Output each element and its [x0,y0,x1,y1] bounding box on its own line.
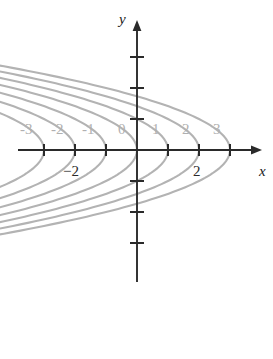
x-tick-label: -3 [20,121,33,137]
x-tick-label: 1 [152,121,160,137]
level-curves-figure: -3-2-10123−22 x y [0,0,273,359]
x-tick-label: -2 [51,121,64,137]
x-axis-arrowhead [251,146,262,155]
x-tick-label-below-axis: −2 [63,163,79,179]
x-tick-label-below-axis: 2 [193,163,201,179]
y-axis-arrowhead [133,20,142,31]
y-axis-label: y [117,11,126,27]
x-axis-label: x [258,163,266,179]
x-tick-label: 0 [118,121,126,137]
x-tick-label: 2 [182,121,190,137]
x-tick-label: -1 [82,121,95,137]
x-tick-label: 3 [213,121,221,137]
plot-canvas: -3-2-10123−22 x y [0,0,273,359]
